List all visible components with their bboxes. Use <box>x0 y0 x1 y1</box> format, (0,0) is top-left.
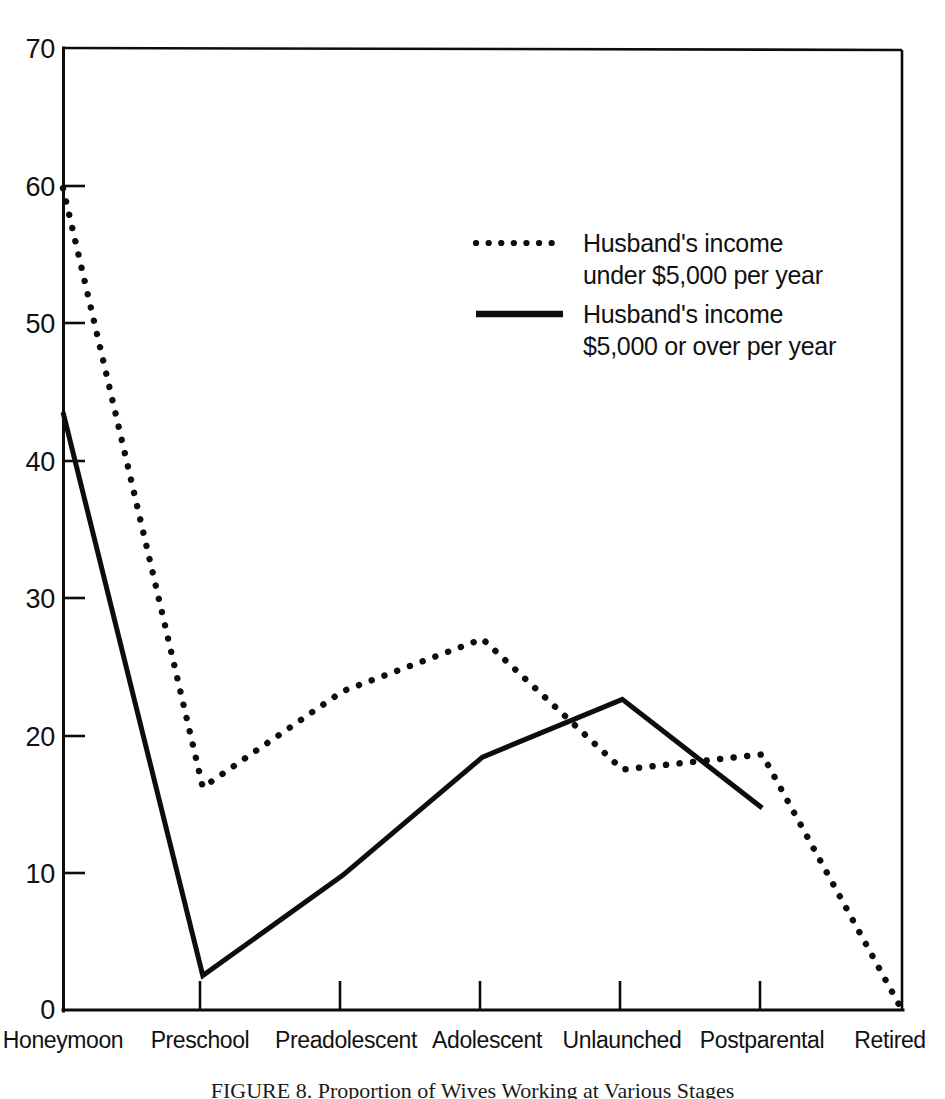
x-tick-label-preadolescent: Preadolescent <box>275 1027 418 1053</box>
x-tick-label-unlaunched: Unlaunched <box>563 1027 682 1053</box>
frame-top <box>63 48 902 50</box>
legend-label-dotted-line1: Husband's income <box>583 229 783 257</box>
x-tick-label-honeymoon: Honeymoon <box>3 1027 123 1053</box>
y-tick-label-0: 0 <box>40 995 55 1025</box>
y-tick-marks <box>64 186 85 873</box>
x-tick-label-postparental: Postparental <box>700 1027 824 1053</box>
legend-label-dotted-line2: under $5,000 per year <box>583 261 823 289</box>
legend-label-solid-line1: Husband's income <box>583 300 783 328</box>
x-tick-label-adolescent: Adolescent <box>432 1027 543 1053</box>
y-tick-label-40: 40 <box>26 447 55 477</box>
y-tick-label-70: 70 <box>26 34 55 64</box>
chart-legend: Husband's income under $5,000 per year H… <box>476 229 836 360</box>
figure-caption: FIGURE 8. Proportion of Wives Working at… <box>0 1078 945 1099</box>
y-tick-labels: 70 60 50 40 30 20 10 0 <box>26 34 55 1025</box>
y-tick-label-10: 10 <box>26 859 55 889</box>
legend-label-solid-line2: $5,000 or over per year <box>583 332 836 360</box>
x-tick-label-preschool: Preschool <box>151 1027 250 1053</box>
figure-container: 70 60 50 40 30 20 10 0 Honeymoon Pr <box>0 0 945 1099</box>
x-tick-label-retired: Retired <box>854 1027 925 1053</box>
y-tick-label-20: 20 <box>26 722 55 752</box>
line-chart: 70 60 50 40 30 20 10 0 Honeymoon Pr <box>0 0 945 1099</box>
x-tick-labels: Honeymoon Preschool Preadolescent Adoles… <box>3 1027 926 1053</box>
plot-frame <box>63 48 903 1011</box>
x-tick-marks <box>200 981 760 1010</box>
y-tick-label-50: 50 <box>26 309 55 339</box>
series-line-husband-income-5000-or-over <box>63 412 762 975</box>
y-tick-label-60: 60 <box>26 172 55 202</box>
y-tick-label-30: 30 <box>26 584 55 614</box>
